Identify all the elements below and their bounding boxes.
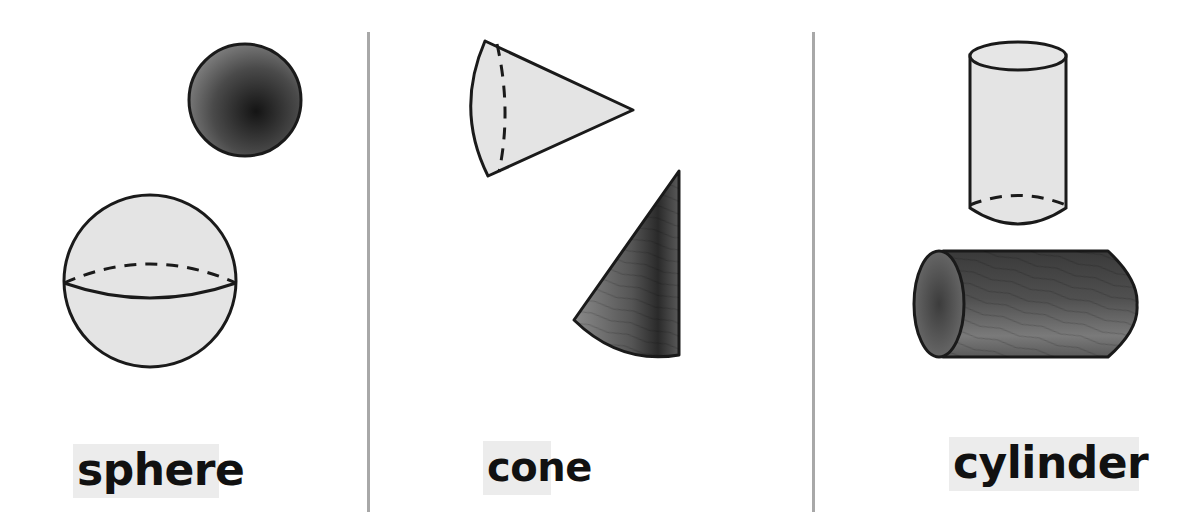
cone-wireframe <box>471 41 633 176</box>
column-divider-1 <box>367 32 370 512</box>
cone-solid-example <box>574 171 679 357</box>
cylinder-solid-example <box>914 251 1137 357</box>
sphere-solid-example <box>189 44 301 156</box>
shapes-figure: sphere cone cylinder <box>0 0 1179 523</box>
sphere-wireframe <box>64 195 236 367</box>
sphere-label: sphere <box>73 444 219 498</box>
cone-label: cone <box>483 441 551 495</box>
column-divider-2 <box>812 32 815 512</box>
cylinder-wireframe <box>970 42 1066 224</box>
cylinder-label: cylinder <box>949 437 1139 491</box>
